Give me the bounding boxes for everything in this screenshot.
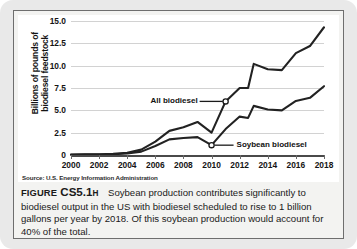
plot-area: 02.55.07.510.012.515.0 All biodiesel Soy… (71, 21, 324, 155)
line-all-biodiesel (71, 27, 324, 154)
y-axis-tick-label: 15.0 (50, 16, 66, 26)
x-axis-tick-label: 2002 (90, 160, 109, 170)
x-axis-line (71, 155, 324, 157)
series-label-all-biodiesel: All biodiesel (150, 96, 197, 105)
y-axis-tick-label: 10.0 (50, 61, 66, 71)
y-axis-tick-label: 12.5 (50, 38, 66, 48)
marker-all-biodiesel (223, 99, 228, 104)
x-axis-tick (268, 155, 269, 159)
source-note: Source: U.S. Energy Information Administ… (22, 174, 158, 181)
y-axis-title-line1: Billions of pounds of (30, 32, 40, 114)
x-axis-tick (155, 155, 156, 159)
figure-container: Billions of pounds of biodiesel feedstoc… (0, 0, 357, 249)
series-label-soybean-biodiesel: Soybean biodiesel (237, 140, 307, 149)
figure-label-word: FIGURE (21, 187, 57, 198)
figure-number: CS5.1 (57, 185, 92, 198)
x-axis-tick-label: 2010 (202, 160, 221, 170)
x-axis-tick-label: 2000 (62, 160, 81, 170)
y-axis-tick-label: 7.5 (54, 83, 66, 93)
figure-caption: FIGURE CS5.1H Soybean production contrib… (18, 186, 339, 238)
x-axis-tick-label: 2018 (315, 160, 334, 170)
x-axis-tick-label: 2008 (174, 160, 193, 170)
x-axis-tick-label: 2012 (230, 160, 249, 170)
x-axis-tick (127, 155, 128, 159)
x-axis-tick (324, 155, 325, 159)
x-axis-tick (240, 155, 241, 159)
x-axis-tick-label: 2004 (118, 160, 137, 170)
x-axis-tick-label: 2014 (258, 160, 277, 170)
x-axis-tick (183, 155, 184, 159)
x-axis-tick-label: 2006 (146, 160, 165, 170)
chart-card: Billions of pounds of biodiesel feedstoc… (18, 15, 339, 182)
y-axis-tick-label: 5.0 (54, 105, 66, 115)
marker-soybean-biodiesel (209, 143, 214, 148)
y-axis-tick-label: 2.5 (54, 128, 66, 138)
y-axis-title-line2: biodiesel feedstock (40, 35, 50, 112)
y-axis-title: Billions of pounds of biodiesel feedstoc… (30, 10, 50, 136)
x-axis-tick (71, 155, 72, 159)
x-axis-tick (99, 155, 100, 159)
y-axis-tick-label: 0 (61, 150, 66, 160)
data-series-layer (71, 21, 324, 155)
x-axis-tick-label: 2016 (287, 160, 306, 170)
figure-panel: Billions of pounds of biodiesel feedstoc… (13, 10, 344, 239)
x-axis-tick (212, 155, 213, 159)
x-axis-tick (296, 155, 297, 159)
chart-plot-wrapper: Billions of pounds of biodiesel feedstoc… (18, 15, 339, 182)
